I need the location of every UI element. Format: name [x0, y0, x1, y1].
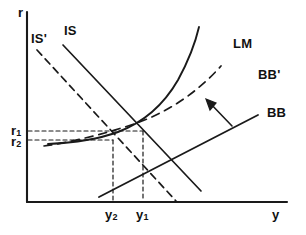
- is-prime-curve: [37, 50, 176, 201]
- y-tick-r2: r2: [11, 135, 21, 149]
- isml-bb-diagram: r y IS' IS LM BB' BB r1 r2 y2 y1: [0, 0, 306, 235]
- x-axis-label: y: [272, 208, 279, 221]
- x-tick-y2: y2: [105, 208, 118, 222]
- x-tick-y1-sub: 1: [143, 212, 148, 222]
- y-tick-r2-sub: 2: [16, 139, 21, 149]
- bb-prime-curve: [44, 66, 221, 146]
- bb-label: BB: [267, 106, 286, 119]
- bb-prime-label: BB': [258, 68, 280, 81]
- is-curve: [63, 45, 201, 191]
- is-label: IS: [64, 24, 77, 37]
- x-tick-y1: y1: [136, 208, 149, 222]
- bb-curve: [99, 115, 258, 197]
- lm-label: LM: [233, 37, 252, 50]
- x-tick-y2-sub: 2: [112, 212, 117, 222]
- is-prime-label: IS': [31, 32, 47, 45]
- y-axis-label: r: [18, 6, 23, 19]
